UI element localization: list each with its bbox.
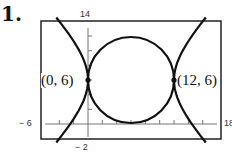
ymax-label: 14: [80, 9, 90, 19]
annotation-0-6: (0, 6): [41, 73, 74, 88]
annotation-12-6: (12, 6): [177, 73, 217, 88]
xmax-label: 18: [224, 118, 232, 128]
xmin-label: − 6: [19, 118, 32, 128]
circle-curve: [88, 37, 174, 123]
point-12-6: [171, 77, 176, 82]
ymin-label: − 2: [75, 142, 88, 152]
point-0-6: [85, 77, 90, 82]
